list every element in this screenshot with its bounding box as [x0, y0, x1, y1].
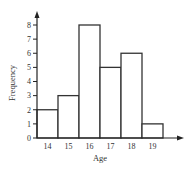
x-tick-label: 17: [107, 142, 115, 151]
x-axis-arrow-icon: [177, 136, 184, 141]
bars-group: [37, 25, 163, 138]
y-tick-label: 1: [27, 120, 31, 129]
x-axis-title: Age: [93, 153, 107, 163]
bar-17: [100, 67, 121, 138]
x-tick-label: 16: [86, 142, 94, 151]
bar-15: [58, 96, 79, 138]
bar-18: [121, 53, 142, 138]
x-ticks-group: 141516171819: [44, 142, 157, 151]
y-tick-label: 7: [27, 35, 31, 44]
bar-19: [142, 124, 163, 138]
y-ticks-group: 012345678: [27, 21, 37, 143]
bar-14: [37, 110, 58, 138]
y-tick-label: 3: [27, 91, 31, 100]
histogram-chart: 012345678 141516171819 Age Frequency: [0, 0, 189, 170]
y-tick-label: 4: [27, 77, 31, 86]
y-tick-label: 8: [27, 21, 31, 30]
x-tick-label: 15: [65, 142, 73, 151]
y-tick-label: 0: [27, 134, 31, 143]
bar-16: [79, 25, 100, 138]
x-tick-label: 18: [128, 142, 136, 151]
y-tick-label: 2: [27, 106, 31, 115]
y-tick-label: 6: [27, 49, 31, 58]
y-axis-arrow-icon: [35, 11, 40, 18]
x-tick-label: 14: [44, 142, 52, 151]
y-tick-label: 5: [27, 63, 31, 72]
x-tick-label: 19: [149, 142, 157, 151]
y-axis-title: Frequency: [7, 64, 17, 101]
